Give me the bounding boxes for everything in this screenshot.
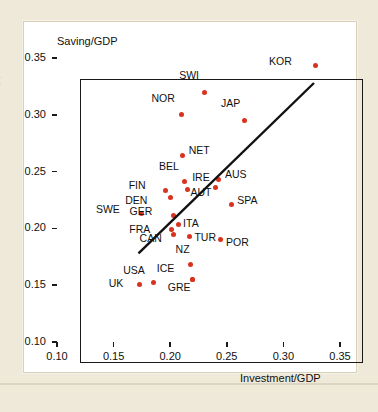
y-tick-label: 0.15 xyxy=(12,278,46,290)
data-point xyxy=(202,90,207,95)
x-tick-mark xyxy=(283,342,285,347)
y-tick-mark xyxy=(52,228,57,230)
x-tick-label: 0.25 xyxy=(210,350,244,362)
page-edge-glyph: t xyxy=(0,72,7,88)
figure-panel: Saving/GDP Investment/GDP 0.350.300.250.… xyxy=(23,21,357,373)
figure-root: t Saving/GDP Investment/GDP 0.350.300.25… xyxy=(0,0,378,412)
x-tick-mark xyxy=(226,342,228,347)
y-tick-mark xyxy=(52,114,57,116)
y-tick-label: 0.35 xyxy=(12,51,46,63)
data-point-label: SWI xyxy=(179,70,199,81)
data-point-label: ICE xyxy=(157,263,175,274)
x-tick-label: 0.35 xyxy=(323,350,357,362)
data-point xyxy=(218,237,223,242)
y-tick-mark xyxy=(52,57,57,59)
data-point-label: GER xyxy=(130,206,153,217)
x-tick-label: 0.30 xyxy=(266,350,300,362)
data-point-label: GRE xyxy=(168,282,191,293)
data-point-label: POR xyxy=(226,237,249,248)
data-point-label: UK xyxy=(109,278,124,289)
data-point xyxy=(168,195,173,200)
data-point xyxy=(187,234,192,239)
data-point xyxy=(213,185,218,190)
data-point xyxy=(229,202,234,207)
data-point-label: SPA xyxy=(237,195,257,206)
data-point-label: BEL xyxy=(159,161,179,172)
y-tick-label: 0.30 xyxy=(12,108,46,120)
x-tick-label: 0.10 xyxy=(40,350,74,362)
y-tick-label: 0.20 xyxy=(12,221,46,233)
plot-area xyxy=(80,79,363,363)
data-point-label: AUT xyxy=(190,187,211,198)
data-point xyxy=(185,187,190,192)
data-point-label: USA xyxy=(123,265,145,276)
data-point-label: TUR xyxy=(194,232,216,243)
data-point-label: NET xyxy=(189,145,210,156)
x-tick-mark xyxy=(113,342,115,347)
data-point-label: AUS xyxy=(225,169,247,180)
x-tick-label: 0.20 xyxy=(153,350,187,362)
y-tick-mark xyxy=(52,171,57,173)
y-tick-mark xyxy=(52,284,57,286)
x-tick-mark xyxy=(56,342,58,347)
y-axis-title: Saving/GDP xyxy=(57,35,118,47)
data-point-label: NOR xyxy=(152,93,175,104)
data-point xyxy=(137,282,142,287)
data-point-label: NZ xyxy=(176,244,190,255)
x-tick-mark xyxy=(169,342,171,347)
data-point-label: ITA xyxy=(183,218,199,229)
page-divider-rule xyxy=(0,383,378,385)
data-point xyxy=(171,232,176,237)
data-point-label: FIN xyxy=(129,180,146,191)
data-point-label: CAN xyxy=(140,233,162,244)
x-tick-mark xyxy=(339,342,341,347)
y-tick-label: 0.25 xyxy=(12,165,46,177)
data-point-label: SWE xyxy=(96,204,120,215)
x-tick-label: 0.15 xyxy=(97,350,131,362)
y-tick-label: 0.10 xyxy=(12,335,46,347)
data-point-label: JAP xyxy=(221,98,240,109)
data-point-label: IRE xyxy=(192,172,210,183)
data-point xyxy=(313,63,318,68)
data-point-label: KOR xyxy=(269,56,292,67)
